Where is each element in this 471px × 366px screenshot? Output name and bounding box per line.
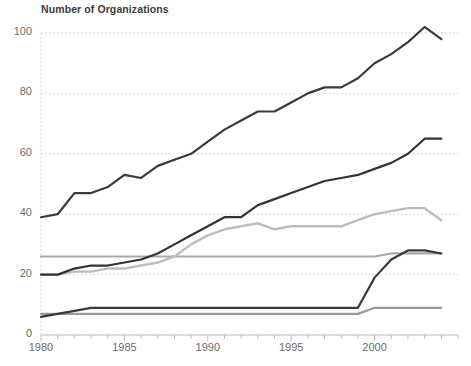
line-chart-plot xyxy=(0,0,471,366)
x-axis-tick-label: 1980 xyxy=(21,341,61,353)
line-series-4 xyxy=(41,253,441,256)
chart-container: Number of Organizations 0204060801001980… xyxy=(0,0,471,366)
x-axis-tick-label: 1990 xyxy=(188,341,228,353)
line-series-1 xyxy=(41,27,441,217)
y-axis-tick-label: 80 xyxy=(2,85,32,97)
x-axis-tick-label: 1995 xyxy=(271,341,311,353)
y-axis-tick-label: 20 xyxy=(2,267,32,279)
y-axis-tick-label: 40 xyxy=(2,206,32,218)
x-axis-tick-label: 2000 xyxy=(355,341,395,353)
x-axis-tick-label: 1985 xyxy=(104,341,144,353)
y-axis-tick-label: 100 xyxy=(2,25,32,37)
y-axis-tick-label: 60 xyxy=(2,146,32,158)
y-axis-tick-label: 0 xyxy=(2,327,32,339)
